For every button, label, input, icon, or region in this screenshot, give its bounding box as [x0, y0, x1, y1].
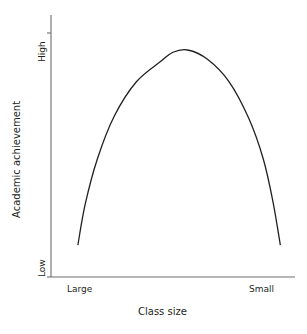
y-tick-label-low: Low [38, 259, 47, 277]
x-axis-title: Class size [138, 307, 187, 317]
x-tick-label-small: Small [249, 285, 274, 294]
y-tick-label-high: High [38, 41, 47, 62]
x-tick-label-large: Large [67, 285, 92, 294]
achievement-curve [78, 50, 281, 246]
y-axis-title: Academic achievement [12, 101, 22, 218]
chart-figure: Academic achievement Class size High Low… [0, 0, 307, 334]
